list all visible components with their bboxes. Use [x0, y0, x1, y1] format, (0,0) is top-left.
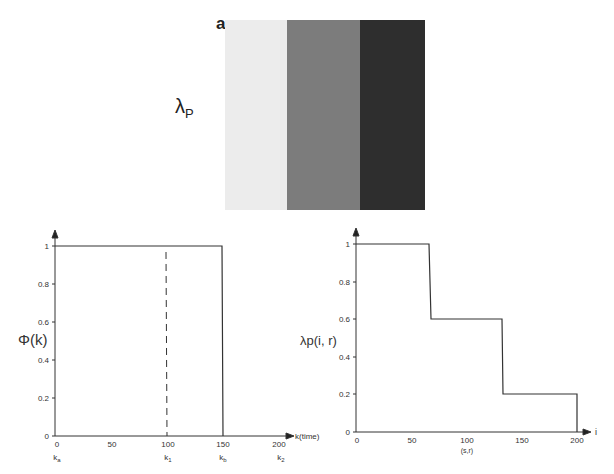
plots-svg: 0 0.2 0.4 0.6 0.8 1 0 50 100 150 200 ka … [0, 0, 614, 474]
left-ytick: 0.8 [38, 280, 50, 289]
right-ytick: 0.6 [339, 315, 351, 324]
left-xtick: 100 [161, 440, 175, 449]
left-xtick: 200 [272, 440, 286, 449]
left-xtick: 50 [108, 440, 117, 449]
right-ytick: 0 [346, 428, 351, 437]
right-xtick: 150 [515, 436, 529, 445]
right-xtick: 200 [570, 436, 584, 445]
right-xtick: 50 [408, 436, 417, 445]
left-ytick: 1 [45, 242, 50, 251]
left-ylabel: Φ(k) [18, 331, 47, 348]
right-ytick: 1 [346, 240, 351, 249]
left-ytick: 0.6 [38, 318, 50, 327]
left-xtick: 150 [216, 440, 230, 449]
left-ytick: 0 [45, 432, 50, 441]
right-xnote: (s,r) [461, 447, 473, 455]
left-ytick: 0.2 [38, 394, 50, 403]
svg-text:k2: k2 [277, 453, 285, 463]
left-xlabel: k(time) [295, 432, 320, 441]
right-xtick: 100 [460, 436, 474, 445]
right-xlabel: i [595, 427, 597, 437]
right-ytick: 0.4 [339, 353, 351, 362]
right-ytick: 0.8 [339, 278, 351, 287]
left-plot [52, 230, 294, 439]
right-ytick: 0.2 [339, 390, 351, 399]
right-xtick: 0 [355, 436, 360, 445]
right-plot [353, 228, 591, 435]
left-ytick: 0.4 [38, 356, 50, 365]
left-xtick: 0 [55, 440, 60, 449]
svg-text:k1: k1 [164, 453, 172, 463]
svg-text:kb: kb [219, 453, 227, 463]
svg-text:ka: ka [53, 453, 61, 463]
right-ylabel: λp(i, r) [300, 333, 337, 348]
